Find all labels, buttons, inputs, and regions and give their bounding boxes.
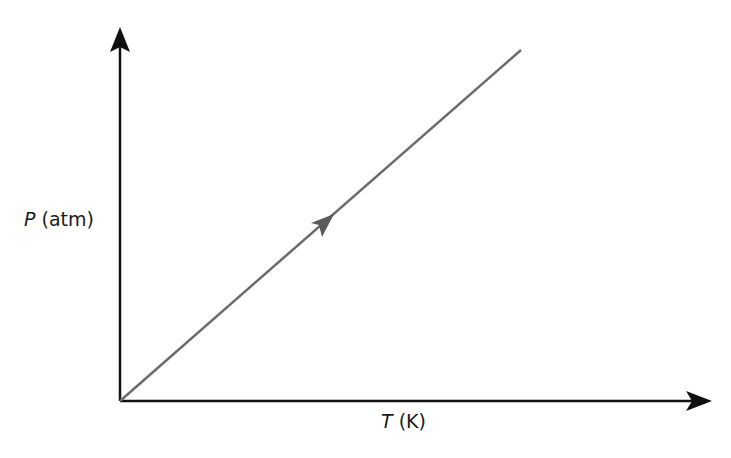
direction-arrow-icon — [311, 214, 334, 237]
y-axis-unit: (atm) — [42, 208, 94, 230]
x-axis-label: T (K) — [381, 410, 426, 432]
y-axis-variable: P — [24, 208, 35, 230]
y-axis-label: P (atm) — [24, 208, 94, 230]
x-axis-variable: T — [381, 410, 393, 432]
diagram-canvas — [0, 0, 731, 458]
x-axis-unit: (K) — [399, 410, 426, 432]
